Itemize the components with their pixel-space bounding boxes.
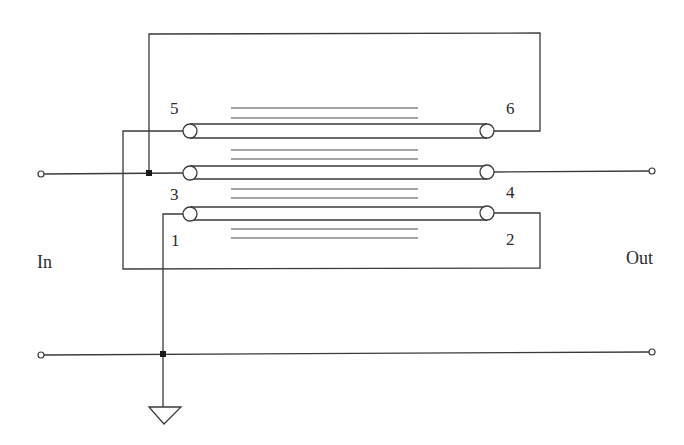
- transformer-schematic: 5 6 3 4 1 2 In Out: [0, 0, 684, 445]
- input-hot-terminal-icon: [38, 171, 44, 177]
- pin-4-end-icon: [480, 165, 494, 179]
- pin-1-end-icon: [183, 207, 197, 221]
- output-ground-terminal-icon: [649, 349, 655, 355]
- pin-2-label: 2: [506, 230, 515, 249]
- core-lines: [231, 108, 418, 238]
- transmission-line-3-4: [183, 165, 494, 180]
- pin-2-end-icon: [480, 206, 494, 220]
- input-ground-terminal-icon: [38, 352, 44, 358]
- input-junction-dot: [146, 170, 152, 176]
- output-label: Out: [626, 248, 653, 268]
- output-hot-terminal-icon: [649, 168, 655, 174]
- input-label: In: [37, 252, 52, 272]
- pin-4-label: 4: [506, 183, 515, 202]
- ground-junction-dot: [160, 351, 166, 357]
- ground-icon: [149, 407, 181, 424]
- pin-3-label: 3: [170, 185, 179, 204]
- pin-1-label: 1: [171, 231, 180, 250]
- pin-6-end-icon: [480, 124, 494, 138]
- transmission-line-1-2: [183, 206, 494, 221]
- pin-5-end-icon: [183, 124, 197, 138]
- transmission-line-5-6: [183, 124, 494, 138]
- pin-6-label: 6: [506, 99, 515, 118]
- pin-5-label: 5: [170, 99, 179, 118]
- pin-3-end-icon: [183, 166, 197, 180]
